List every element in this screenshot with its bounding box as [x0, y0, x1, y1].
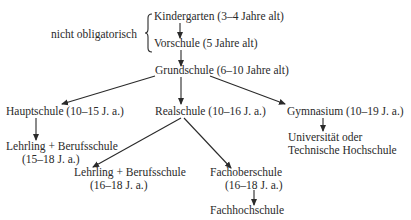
- node-grundschule: Grundschule (6–10 Jahre alt): [155, 64, 289, 77]
- node-lehrling-haupt-line2: (15–18 J. a.): [22, 153, 80, 166]
- brace-icon: [145, 14, 152, 52]
- node-universitaet-line1: Universität oder: [288, 131, 362, 144]
- arrow-grundschule-hauptschule: [62, 76, 155, 104]
- node-lehrling-real-line1: Lehrling + Berufsschule: [74, 166, 186, 179]
- node-fachhochschule: Fachhochschule: [210, 204, 284, 217]
- node-hauptschule: Hauptschule (10–15 J. a.): [6, 105, 124, 118]
- node-gymnasium: Gymnasium (10–19 J. a.): [287, 105, 404, 118]
- arrow-grundschule-gymnasium: [210, 76, 285, 104]
- node-fachoberschule-line1: Fachoberschule: [210, 166, 282, 179]
- node-universitaet-line2: Technische Hochschule: [288, 144, 397, 157]
- node-lehrling-real-line2: (16–18 J. a.): [90, 179, 148, 192]
- arrow-realschule-fachoberschule: [184, 118, 231, 168]
- node-vorschule: Vorschule (5 Jahre alt): [154, 37, 258, 50]
- bracket-label-optional: nicht obligatorisch: [51, 28, 137, 41]
- node-lehrling-haupt-line1: Lehrling + Berufsschule: [6, 140, 118, 153]
- node-kindergarten: Kindergarten (3–4 Jahre alt): [154, 10, 284, 23]
- node-realschule: Realschule (10–16 J. a.): [155, 105, 266, 118]
- node-fachoberschule-line2: (16–18 J. a.): [225, 179, 283, 192]
